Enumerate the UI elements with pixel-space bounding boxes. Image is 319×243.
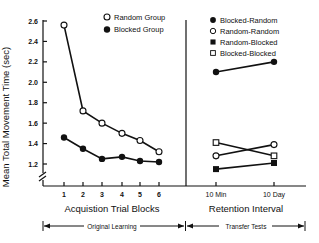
x-tick-label: 2 bbox=[81, 191, 85, 198]
span-label-original-learning: Original Learning bbox=[87, 223, 137, 231]
data-point bbox=[271, 153, 277, 159]
data-point bbox=[213, 140, 219, 146]
data-point bbox=[271, 59, 277, 65]
y-axis-title: Mean Total Movement Time (sec) bbox=[0, 47, 11, 187]
filled-circle-icon bbox=[104, 26, 110, 32]
data-point bbox=[99, 156, 105, 162]
legend-label: Blocked-Blocked bbox=[220, 49, 276, 58]
legend-label: Blocked Group bbox=[114, 25, 164, 34]
data-point bbox=[156, 159, 162, 165]
y-tick-label: 2.4 bbox=[28, 38, 38, 45]
y-tick-label: 1.8 bbox=[28, 99, 38, 106]
data-point bbox=[156, 149, 162, 155]
data-point bbox=[61, 22, 67, 28]
data-point bbox=[271, 160, 277, 166]
filled-circle-icon bbox=[210, 17, 216, 23]
legend-acquisition: Random GroupBlocked Group bbox=[104, 13, 165, 35]
open-circle-icon bbox=[104, 14, 110, 20]
legend-label: Blocked-Random bbox=[220, 16, 278, 25]
x-axis-ticks: 12345610 Min10 Day bbox=[62, 182, 286, 199]
data-point bbox=[213, 153, 219, 159]
data-point bbox=[137, 158, 143, 164]
x-tick-label: 10 Day bbox=[263, 191, 286, 199]
y-axis-ticks: 2.62.42.22.01.81.61.41.2 bbox=[28, 18, 47, 168]
x-tick-label: 3 bbox=[100, 191, 104, 198]
open-circle-icon bbox=[210, 28, 215, 33]
data-point bbox=[80, 108, 86, 114]
data-point bbox=[213, 69, 219, 75]
y-tick-label: 1.2 bbox=[28, 161, 38, 168]
legend-label: Random Group bbox=[114, 13, 165, 22]
data-point bbox=[61, 134, 67, 140]
data-point bbox=[213, 166, 219, 172]
series-blocked-random bbox=[213, 59, 277, 76]
retention-chart: Mean Total Movement Time (sec) 2.62.42.2… bbox=[0, 0, 319, 243]
legend-retention: Blocked-RandomRandom-RandomRandom-Blocke… bbox=[210, 16, 279, 58]
x-axis-title-acquisition: Acquistion Trial Blocks bbox=[64, 203, 159, 214]
x-tick-label: 5 bbox=[138, 191, 142, 198]
y-tick-label: 2.6 bbox=[28, 18, 38, 25]
x-tick-label: 4 bbox=[120, 191, 124, 198]
data-point bbox=[137, 138, 143, 144]
data-point bbox=[80, 145, 86, 151]
x-tick-label: 10 Min bbox=[205, 191, 226, 198]
x-tick-label: 1 bbox=[62, 191, 66, 198]
legend-label: Random-Random bbox=[220, 27, 279, 36]
series-blocked-group bbox=[61, 134, 162, 165]
y-tick-label: 1.6 bbox=[28, 120, 38, 127]
data-point bbox=[119, 154, 125, 160]
data-point bbox=[271, 142, 277, 148]
x-axis-title-retention: Retention Interval bbox=[209, 203, 283, 214]
x-tick-label: 6 bbox=[157, 191, 161, 198]
y-tick-label: 2.0 bbox=[28, 79, 38, 86]
legend-label: Random-Blocked bbox=[220, 38, 278, 47]
span-label-transfer-tests: Transfer Tests bbox=[226, 223, 268, 230]
y-tick-label: 1.4 bbox=[28, 140, 38, 147]
series-blocked-blocked bbox=[213, 140, 277, 159]
series-random-group bbox=[61, 22, 162, 155]
data-point bbox=[119, 130, 125, 136]
series-random-blocked bbox=[213, 160, 277, 172]
y-tick-label: 2.2 bbox=[28, 58, 38, 65]
open-square-icon bbox=[211, 51, 216, 56]
filled-square-icon bbox=[210, 39, 215, 44]
data-point bbox=[99, 120, 105, 126]
